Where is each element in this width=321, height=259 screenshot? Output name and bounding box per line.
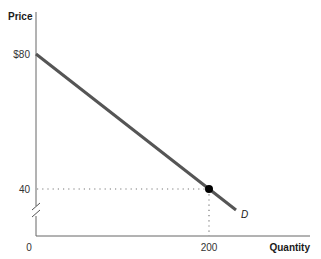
y-axis-title: Price [8,11,33,22]
x-tick-200: 200 [201,242,218,253]
y-tick-40: 40 [19,184,31,195]
equilibrium-point [205,185,213,193]
demand-chart: Price $80 40 0 200 Quantity D [0,0,321,259]
y-tick-80: $80 [13,49,30,60]
x-tick-0: 0 [26,242,32,253]
demand-curve-label: D [241,209,248,220]
x-axis-title: Quantity [269,242,310,253]
